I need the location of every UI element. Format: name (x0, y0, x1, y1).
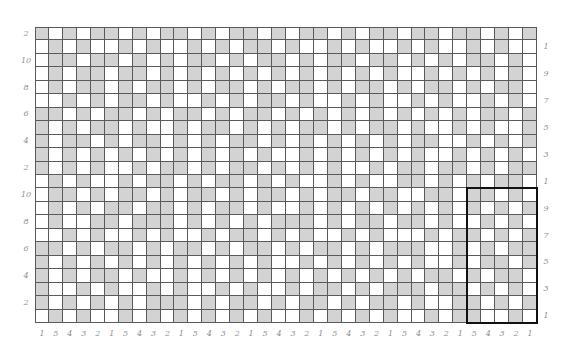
chart-cell (425, 310, 439, 323)
chart-cell (370, 40, 384, 54)
chart-cell (133, 148, 147, 162)
chart-cell (300, 27, 314, 40)
chart-cell (495, 269, 509, 283)
chart-cell (188, 188, 202, 202)
chart-cell (384, 94, 398, 108)
chart-cell (314, 175, 328, 188)
chart-cell (230, 188, 244, 202)
chart-cell (439, 162, 453, 175)
chart-cell (495, 215, 509, 229)
chart-cell (300, 188, 314, 202)
chart-cell (412, 94, 425, 108)
chart-cell (370, 121, 384, 135)
chart-cell (342, 54, 356, 67)
chart-cell (481, 175, 495, 188)
chart-cell (481, 148, 495, 162)
chart-cell (49, 215, 63, 229)
chart-cell (161, 81, 174, 94)
chart-cell (425, 269, 439, 283)
chart-cell (342, 283, 356, 296)
chart-cell (328, 283, 342, 296)
chart-cell (356, 148, 370, 162)
chart-cell (230, 81, 244, 94)
chart-cell (258, 188, 272, 202)
chart-cell (356, 94, 370, 108)
chart-cell (77, 229, 91, 242)
chart-cell (133, 94, 147, 108)
chart-cell (147, 40, 161, 54)
chart-cell (439, 148, 453, 162)
chart-cell (188, 202, 202, 215)
chart-cell (425, 215, 439, 229)
chart-cell (509, 148, 523, 162)
chart-cell (147, 256, 161, 269)
chart-cell (119, 310, 133, 323)
chart-cell (119, 121, 133, 135)
chart-cell (147, 54, 161, 67)
chart-cell (258, 67, 272, 81)
chart-cell (188, 283, 202, 296)
row-label-left: 8 (16, 217, 36, 227)
chart-cell (161, 242, 174, 256)
chart-cell (105, 162, 119, 175)
chart-cell (258, 54, 272, 67)
chart-cell (425, 283, 439, 296)
chart-cell (216, 67, 230, 81)
chart-cell (314, 94, 328, 108)
chart-cell (439, 202, 453, 215)
chart-cell (356, 108, 370, 121)
chart-cell (495, 40, 509, 54)
chart-cell (523, 81, 537, 94)
chart-cell (398, 67, 412, 81)
chart-cell (133, 175, 147, 188)
chart-cell (300, 215, 314, 229)
chart-cell (133, 27, 147, 40)
chart-cell (300, 242, 314, 256)
chart-cell (105, 242, 119, 256)
chart-cell (258, 175, 272, 188)
chart-cell (147, 148, 161, 162)
chart-cell (63, 310, 77, 323)
chart-cell (35, 121, 49, 135)
chart-cell (314, 162, 328, 175)
chart-cell (384, 54, 398, 67)
chart-cell (398, 54, 412, 67)
chart-cell (467, 229, 481, 242)
chart-cell (202, 121, 216, 135)
chart-cell (425, 256, 439, 269)
chart-cell (174, 135, 188, 148)
chart-cell (63, 296, 77, 310)
chart-cell (453, 175, 467, 188)
chart-cell (244, 148, 258, 162)
chart-cell (495, 121, 509, 135)
chart-cell (119, 108, 133, 121)
chart-cell (439, 81, 453, 94)
chart-cell (188, 54, 202, 67)
chart-cell (105, 54, 119, 67)
chart-cell (63, 229, 77, 242)
chart-cell (272, 121, 286, 135)
chart-cell (258, 40, 272, 54)
chart-cell (161, 256, 174, 269)
chart-cell (523, 27, 537, 40)
chart-cell (202, 54, 216, 67)
chart-cell (314, 108, 328, 121)
chart-cell (147, 121, 161, 135)
chart-cell (286, 162, 300, 175)
chart-cell (272, 242, 286, 256)
chart-cell (63, 175, 77, 188)
chart-cell (384, 202, 398, 215)
chart-cell (258, 81, 272, 94)
row-label-right: 7 (536, 231, 556, 241)
chart-cell (412, 310, 425, 323)
chart-cell (314, 215, 328, 229)
chart-cell (300, 67, 314, 81)
chart-cell (49, 256, 63, 269)
chart-cell (174, 27, 188, 40)
chart-cell (147, 283, 161, 296)
chart-cell (286, 202, 300, 215)
chart-cell (161, 94, 174, 108)
chart-cell (91, 94, 105, 108)
chart-cell (77, 256, 91, 269)
chart-cell (467, 81, 481, 94)
